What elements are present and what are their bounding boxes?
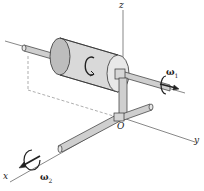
omega1-subscript: 1 [175, 72, 179, 79]
left-shaft [22, 45, 52, 59]
y-axis-line [123, 118, 195, 142]
vertical-post [119, 78, 127, 116]
z-axis-label: z [119, 1, 124, 10]
x-axis-label: x [3, 172, 8, 181]
cylinder [50, 38, 129, 92]
omega2-subscript: 2 [49, 177, 53, 184]
omega2-label: ω2 [40, 173, 52, 184]
x-shaft [58, 113, 124, 153]
axes [5, 10, 195, 182]
omega1-label: ω1 [166, 68, 178, 79]
diagram-canvas [0, 0, 204, 191]
origin-label: O [117, 122, 124, 131]
omega1-symbol: ω [166, 67, 175, 77]
omega2-symbol: ω [40, 172, 49, 182]
y-axis-label: y [194, 136, 199, 145]
mechanics-diagram: z y x O ω1 ω2 [0, 0, 204, 191]
